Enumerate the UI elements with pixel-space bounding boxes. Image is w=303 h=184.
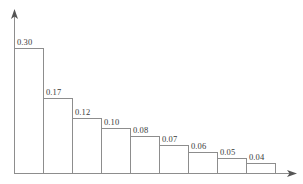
bar-value-label: 0.08 [133,126,148,135]
bar-value-label: 0.07 [162,135,177,144]
bar [160,146,189,174]
bar-value-label: 0.04 [249,153,264,162]
bar-value-label: 0.12 [75,108,90,117]
bars-group [15,49,276,174]
bar-value-label: 0.17 [46,88,61,97]
bar [15,49,44,174]
bar-value-label: 0.05 [220,148,235,157]
bar [73,119,102,174]
bar [247,164,276,174]
bar-value-label: 0.30 [17,38,32,47]
bar-chart-figure: 0.300.170.120.100.080.070.060.050.04 [0,0,303,184]
bar [102,129,131,174]
bar-value-label: 0.06 [191,142,206,151]
bar [44,99,73,174]
bar-value-label: 0.10 [104,118,119,127]
bar [218,159,247,174]
bar [131,137,160,174]
bar [189,153,218,174]
